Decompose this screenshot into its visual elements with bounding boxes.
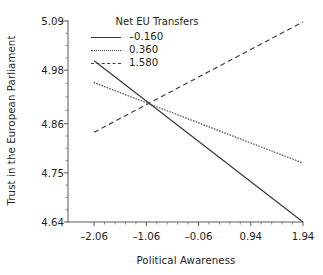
x-tick-label: –1.06 — [116, 231, 176, 242]
y-axis-major-ticks — [64, 21, 68, 222]
series-line-0 — [94, 61, 303, 222]
legend-item-label: 0.360 — [122, 44, 158, 55]
legend: Net EU Transfers –0.160 0.360 1.580 — [88, 16, 216, 69]
x-axis-title: Political Awareness — [68, 255, 304, 266]
y-tick-label: 4.75 — [20, 167, 64, 178]
y-axis-tick-labels: 5.094.984.864.754.64 — [16, 0, 64, 275]
legend-line-sample-dashed-icon — [88, 58, 122, 68]
chart-figure: Trust in the European Parliament 5.094.9… — [0, 0, 323, 275]
y-tick-label: 4.64 — [20, 217, 64, 228]
legend-item-0[interactable]: –0.160 — [88, 30, 216, 43]
legend-item-label: –0.160 — [122, 31, 163, 42]
x-tick-label: 1.94 — [273, 231, 323, 242]
series-line-1 — [94, 83, 303, 163]
x-tick-label: –0.06 — [169, 231, 229, 242]
x-tick-label: 0.94 — [221, 231, 281, 242]
legend-line-sample-dotted-icon — [88, 45, 122, 55]
legend-item-2[interactable]: 1.580 — [88, 56, 216, 69]
legend-item-label: 1.580 — [122, 57, 158, 68]
legend-line-sample-solid-icon — [88, 32, 122, 42]
y-tick-label: 4.98 — [20, 65, 64, 76]
y-axis-title-text: Trust in the European Parliament — [6, 35, 17, 205]
x-tick-label: –2.06 — [64, 231, 124, 242]
y-tick-label: 4.86 — [20, 118, 64, 129]
y-tick-label: 5.09 — [20, 16, 64, 27]
legend-item-1[interactable]: 0.360 — [88, 43, 216, 56]
legend-title: Net EU Transfers — [88, 16, 216, 27]
